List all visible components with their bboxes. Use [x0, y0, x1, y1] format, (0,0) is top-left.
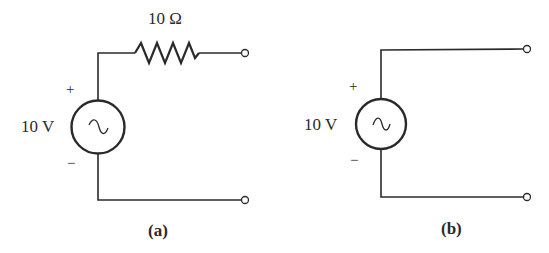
terminal-bottom-a[interactable] [242, 197, 249, 204]
sine-wave-icon-b [373, 118, 390, 130]
minus-sign-a: − [67, 156, 75, 171]
ac-source-icon-a [72, 101, 125, 154]
source-label-a: 10 V [21, 118, 54, 135]
plus-sign-a: + [66, 82, 74, 97]
source-label-b: 10 V [304, 116, 337, 133]
plus-sign-b: + [349, 79, 357, 94]
terminal-bottom-b[interactable] [524, 194, 531, 201]
minus-sign-b: − [350, 153, 358, 168]
circuit-b [356, 46, 531, 201]
resistor-label-a: 10 Ω [148, 10, 182, 27]
circuit-diagram [0, 0, 549, 253]
caption-b: (b) [441, 220, 462, 237]
sine-wave-icon-a [89, 120, 108, 134]
caption-a: (a) [148, 222, 168, 239]
wire-bottom-a [98, 154, 241, 201]
terminal-top-b[interactable] [524, 46, 531, 53]
ac-source-icon-b [356, 99, 406, 149]
wire-top-a [98, 53, 135, 100]
resistor-icon [135, 43, 199, 63]
wire-bottom-b [381, 149, 523, 197]
wire-top-b [381, 49, 523, 99]
circuit-a [72, 43, 249, 204]
terminal-top-a[interactable] [242, 50, 249, 57]
